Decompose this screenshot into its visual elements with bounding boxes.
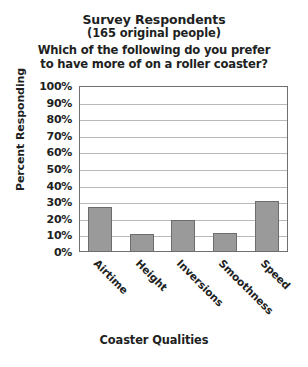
bar-speed[interactable] [255, 201, 279, 252]
y-axis-tick-label: 70% [47, 130, 72, 141]
chart-title-block: Survey Respondents (165 original people) [0, 13, 308, 41]
bar-airtime[interactable] [88, 207, 112, 252]
x-axis-tick-slot: Smoothness [204, 253, 246, 325]
y-axis-tick-label: 20% [47, 213, 72, 224]
bar-height[interactable] [130, 234, 154, 252]
x-axis-tick-slot: Airtime [79, 253, 121, 325]
chart-subtitle: (165 original people) [0, 27, 308, 41]
bar-slot [163, 86, 205, 252]
bar-slot [246, 86, 288, 252]
y-axis-tick-label: 40% [47, 180, 72, 191]
bars-layer [79, 86, 288, 252]
y-axis-title: Percent Responding [14, 65, 27, 195]
survey-question: Which of the following do you prefer to … [0, 43, 308, 71]
y-axis-tick-label: 100% [39, 81, 72, 92]
bar-smoothness[interactable] [213, 233, 237, 252]
bar-slot [204, 86, 246, 252]
survey-question-line-1: Which of the following do you prefer [0, 43, 308, 57]
x-axis-title: Coaster Qualities [0, 333, 308, 347]
x-axis-tick-label: Speed [259, 257, 293, 291]
x-axis-tick-slot: Height [121, 253, 163, 325]
y-axis-tick-label: 90% [47, 97, 72, 108]
survey-question-line-2: to have more of on a roller coaster? [0, 57, 308, 71]
x-axis-tick-slot: Inversions [163, 253, 205, 325]
y-axis-tick-label: 60% [47, 147, 72, 158]
x-axis-ticks: AirtimeHeightInversionsSmoothnessSpeed [79, 253, 288, 325]
y-axis-tick-label: 10% [47, 230, 72, 241]
y-axis-tick-label: 80% [47, 114, 72, 125]
page-title: Survey Respondents [0, 13, 308, 27]
y-axis-ticks: 100%90%80%70%60%50%40%30%20%10%0% [28, 86, 75, 252]
y-axis-tick-label: 50% [47, 164, 72, 175]
y-axis-tick-label: 30% [47, 197, 72, 208]
x-axis-tick-slot: Speed [246, 253, 288, 325]
bar-slot [79, 86, 121, 252]
bar-inversions[interactable] [171, 220, 195, 252]
bar-slot [121, 86, 163, 252]
y-axis-tick-label: 0% [54, 247, 72, 258]
